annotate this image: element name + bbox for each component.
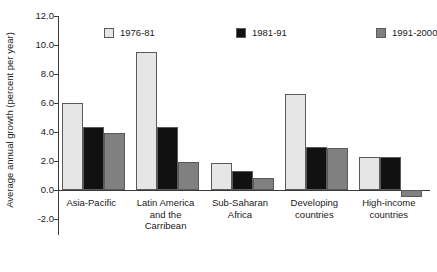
- bar: [62, 103, 83, 190]
- x-axis-category-label: High-income countries: [352, 197, 426, 220]
- x-axis-category-label: Sub-Saharan Africa: [203, 197, 277, 220]
- x-axis-category-label: Asia-Pacific: [54, 197, 128, 209]
- bar-chart: Average annual growth (percent per year)…: [0, 0, 437, 272]
- x-axis-category-label: Developing countries: [277, 197, 351, 220]
- bar: [327, 148, 348, 190]
- bar: [359, 157, 380, 190]
- bar: [178, 162, 199, 190]
- y-tick-label: -2.0: [20, 214, 54, 224]
- y-tick-label: 8.0: [20, 69, 54, 79]
- bar: [232, 171, 253, 190]
- bar: [401, 190, 422, 197]
- y-tick-label: 4.0: [20, 127, 54, 137]
- bar: [306, 147, 327, 191]
- bar: [136, 52, 157, 190]
- y-tick-label: 10.0: [20, 40, 54, 50]
- bar: [104, 133, 125, 190]
- y-tick-label: 2.0: [20, 156, 54, 166]
- bar: [285, 94, 306, 190]
- bar: [157, 127, 178, 190]
- y-axis-ticks: 12.010.08.06.04.02.00.0-2.0: [16, 0, 54, 272]
- y-tick-label: 0.0: [20, 185, 54, 195]
- bar: [211, 163, 232, 190]
- y-tick-label: 6.0: [20, 98, 54, 108]
- plot-area: [58, 16, 430, 219]
- x-axis-category-label: Latin America and the Carribean: [128, 197, 202, 232]
- bar: [253, 178, 274, 190]
- y-tick-label: 12.0: [20, 11, 54, 21]
- bar: [83, 127, 104, 190]
- bar: [380, 157, 401, 190]
